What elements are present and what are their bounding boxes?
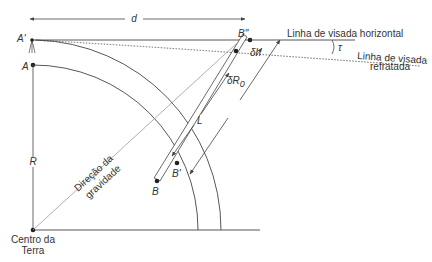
distance-d-dimension: d [30,13,245,24]
label-A: A [21,61,29,72]
gravity-direction-line [33,44,236,230]
label-R: R [29,156,36,167]
label-horizontal-sight-line: Linha de visada horizontal [287,28,403,39]
label-delta-R0: δR0 [227,75,245,89]
delta-h-dimension: δh [250,47,262,58]
label-refracted-sight-line-2: refratada [370,61,410,72]
tau-angle-arc [332,40,334,54]
label-earth-center-1: Centro da [11,234,55,245]
refraction-diagram: d Linha de visada horizontal Linha de vi… [0,0,432,262]
refracted-intersection-point [234,49,239,54]
label-L: L [197,115,203,126]
label-delta-h: δh [250,47,262,58]
label-B-double-prime: B" [238,28,249,39]
point-B-double-prime [248,38,253,43]
label-B-prime: B' [172,168,182,179]
point-B [155,179,160,184]
label-B: B [152,186,159,197]
label-d: d [131,13,137,24]
label-earth-center-2: Terra [22,245,45,256]
point-B-prime [175,161,180,166]
label-A-prime: A' [16,33,27,44]
label-tau: τ [338,42,343,53]
